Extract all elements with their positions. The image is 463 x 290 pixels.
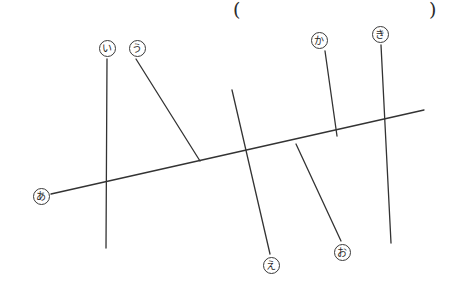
label-marker-e: え <box>263 257 280 274</box>
label-marker-i: い <box>99 40 116 57</box>
diagram-line-line-e <box>232 90 270 254</box>
diagram-line-line-o <box>296 144 341 241</box>
answer-close-paren: ) <box>429 0 436 19</box>
line-diagram-canvas <box>0 0 463 290</box>
label-marker-ka: か <box>311 32 328 49</box>
diagram-page: ( ) あいうえおかき <box>0 0 463 290</box>
answer-blank-field[interactable] <box>245 2 427 20</box>
diagram-line-line-u <box>136 59 200 161</box>
diagram-line-line-ki <box>381 45 391 243</box>
diagram-line-line-i <box>106 59 107 248</box>
answer-open-paren: ( <box>233 0 240 19</box>
label-marker-o: お <box>334 244 351 261</box>
diagram-line-line-ka <box>325 51 337 136</box>
label-marker-u: う <box>129 40 146 57</box>
lines-group <box>51 45 424 254</box>
label-marker-ki: き <box>372 26 389 43</box>
label-marker-a: あ <box>33 188 50 205</box>
